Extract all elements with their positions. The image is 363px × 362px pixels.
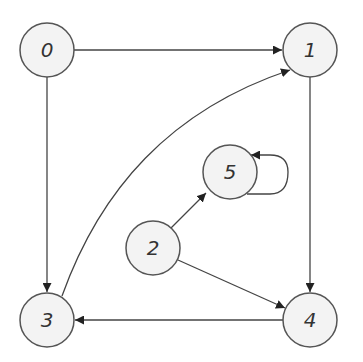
node-label: 0	[41, 38, 54, 62]
edge-2-5	[171, 193, 206, 228]
node-5[interactable]: 5	[203, 145, 257, 199]
node-label: 1	[304, 38, 317, 62]
node-1[interactable]: 1	[283, 23, 337, 77]
node-2[interactable]: 2	[126, 221, 180, 275]
node-label: 4	[304, 308, 317, 332]
node-3[interactable]: 3	[20, 293, 74, 347]
node-label: 3	[41, 308, 54, 332]
node-4[interactable]: 4	[283, 293, 337, 347]
node-label: 5	[224, 160, 237, 184]
graph-canvas: 0 1 2 3 4 5	[0, 0, 363, 362]
node-label: 2	[147, 236, 160, 260]
edge-2-4	[178, 260, 285, 308]
node-0[interactable]: 0	[20, 23, 74, 77]
